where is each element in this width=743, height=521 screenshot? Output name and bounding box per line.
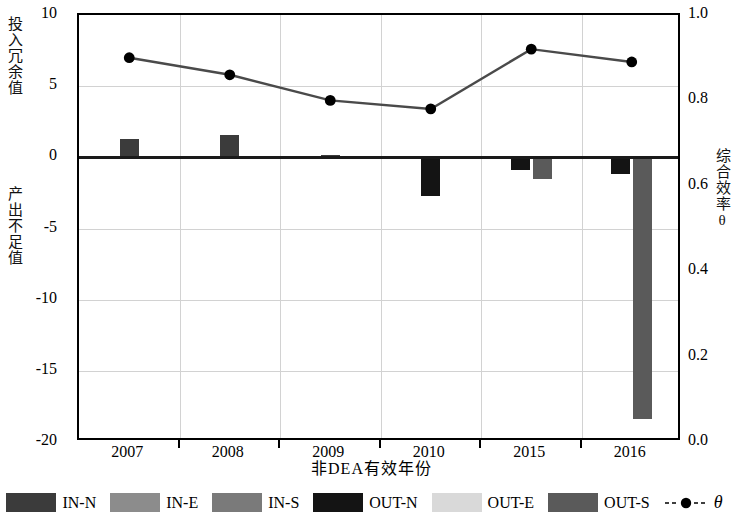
theta-marker-2009	[325, 95, 336, 106]
x-tick-label-2015: 2015	[513, 443, 545, 461]
x-tick-mark	[379, 440, 381, 448]
x-tick-mark	[580, 440, 582, 448]
y-tick-label-right: 0.6	[688, 176, 743, 192]
plot-area	[77, 13, 680, 440]
legend-item-ins[interactable]: IN-S	[212, 493, 299, 512]
x-tick-label-2007: 2007	[111, 443, 143, 461]
legend-item-outs[interactable]: OUT-S	[548, 493, 650, 512]
y-tick-label-left: -5	[0, 219, 57, 235]
chart-legend: IN-NIN-EIN-SOUT-NOUT-EOUT-Sθ	[0, 492, 743, 513]
y-tick-label-left: 10	[0, 5, 57, 21]
x-tick-label-2008: 2008	[212, 443, 244, 461]
legend-line-marker-icon	[664, 495, 708, 511]
legend-label: OUT-N	[369, 494, 417, 512]
x-tick-label-2016: 2016	[614, 443, 646, 461]
x-tick-label-2009: 2009	[312, 443, 344, 461]
y-tick-label-right: 0.8	[688, 90, 743, 106]
theta-marker-2016	[626, 57, 637, 68]
legend-swatch-icon	[313, 493, 363, 512]
y-tick-label-right: 0.4	[688, 261, 743, 277]
x-tick-label-2010: 2010	[413, 443, 445, 461]
legend-label: IN-E	[166, 494, 198, 512]
theta-marker-2007	[124, 52, 135, 63]
legend-item-outn[interactable]: OUT-N	[313, 493, 417, 512]
legend-label: IN-S	[268, 494, 299, 512]
legend-item-inn[interactable]: IN-N	[6, 493, 96, 512]
x-tick-mark	[278, 440, 280, 448]
plot-inner	[79, 15, 678, 438]
y-tick-label-right: 1.0	[688, 5, 743, 21]
x-tick-mark	[479, 440, 481, 448]
theta-line	[129, 49, 632, 109]
chart-figure: 投入冗余值 产出不足值 综合效率θ 非DEA有效年份 1050-5-10-15-…	[0, 0, 743, 521]
legend-label: OUT-E	[488, 494, 535, 512]
legend-item-[interactable]: θ	[664, 492, 723, 513]
legend-item-oute[interactable]: OUT-E	[432, 493, 535, 512]
y-tick-label-right: 0.0	[688, 432, 743, 448]
legend-swatch-icon	[432, 493, 482, 512]
legend-label: θ	[714, 492, 723, 513]
theta-marker-2015	[526, 44, 537, 55]
theta-line-series	[79, 15, 678, 438]
theta-marker-2008	[224, 69, 235, 80]
legend-swatch-icon	[110, 493, 160, 512]
y-tick-label-left: -20	[0, 432, 57, 448]
legend-swatch-icon	[212, 493, 262, 512]
y-tick-label-left: -15	[0, 361, 57, 377]
y-tick-label-right: 0.2	[688, 347, 743, 363]
legend-label: OUT-S	[604, 494, 650, 512]
legend-label: IN-N	[62, 494, 96, 512]
x-tick-mark	[178, 440, 180, 448]
legend-swatch-icon	[548, 493, 598, 512]
legend-swatch-icon	[6, 493, 56, 512]
y-tick-label-left: -10	[0, 290, 57, 306]
y-tick-label-left: 5	[0, 76, 57, 92]
theta-marker-2010	[425, 104, 436, 115]
y-tick-label-left: 0	[0, 147, 57, 163]
legend-item-ine[interactable]: IN-E	[110, 493, 198, 512]
